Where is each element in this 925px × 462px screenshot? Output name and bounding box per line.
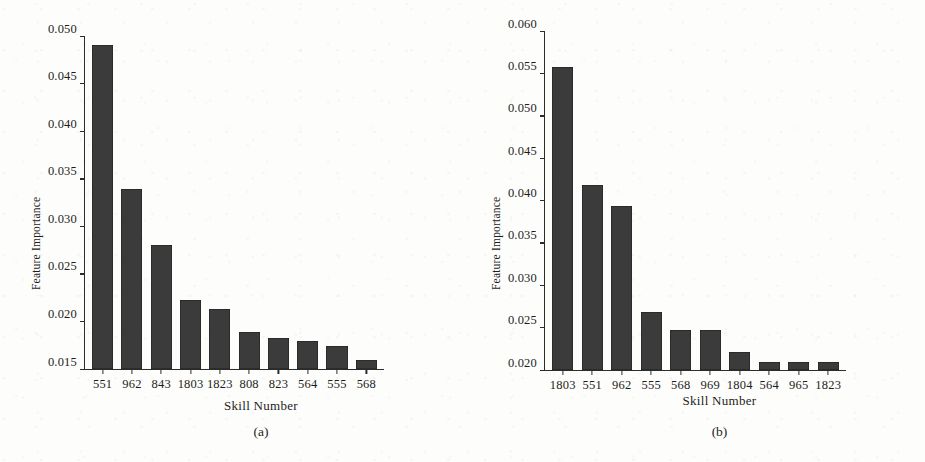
panel-caption-b: (b) [488, 424, 925, 440]
bar-slot-a: 1803 [176, 36, 205, 369]
x-tick-mark-b [621, 370, 622, 375]
bar-b [700, 330, 721, 370]
bar-a [151, 245, 172, 369]
y-tick-mark-b [540, 73, 545, 74]
x-tick-mark-a [278, 369, 279, 374]
bar-slot-b: 555 [637, 31, 667, 370]
figure-two-panel-bar-charts: Feature Importance 551962843180318238088… [0, 0, 925, 462]
x-tick-mark-a [102, 369, 103, 374]
bar-b [759, 362, 780, 370]
bar-slot-b: 969 [696, 31, 726, 370]
bar-b [611, 206, 632, 370]
bar-slot-a: 843 [147, 36, 176, 369]
bar-group-b: 180355196255556896918045649651823 [545, 31, 846, 370]
bar-slot-b: 1823 [814, 31, 844, 370]
bar-a [268, 338, 289, 369]
y-axis-label-a: Feature Importance [30, 197, 42, 290]
x-tick-mark-a [307, 369, 308, 374]
y-tick-mark-a [80, 273, 85, 274]
x-tick-label-b: 1823 [815, 378, 841, 393]
y-tick-mark-b [540, 115, 545, 116]
x-tick-label-b: 551 [583, 378, 602, 393]
y-tick-label-b: 0.035 [508, 228, 537, 243]
y-tick-mark-b [540, 327, 545, 328]
y-tick-mark-b [540, 158, 545, 159]
y-tick-label-a: 0.035 [48, 164, 77, 179]
x-tick-mark-a [190, 369, 191, 374]
bar-slot-a: 551 [88, 36, 117, 369]
y-tick-label-a: 0.050 [48, 21, 77, 36]
x-tick-label-b: 555 [642, 378, 661, 393]
bar-slot-a: 823 [264, 36, 293, 369]
x-tick-mark-a [336, 369, 337, 374]
x-tick-label-a: 823 [269, 377, 288, 392]
bar-slot-b: 564 [755, 31, 785, 370]
y-tick-label-a: 0.015 [48, 354, 77, 369]
x-tick-label-a: 568 [357, 377, 376, 392]
y-tick-mark-b [540, 370, 545, 371]
panel-b: Feature Importance 180355196255556896918… [462, 0, 925, 462]
x-tick-mark-b [680, 370, 681, 375]
y-tick-label-b: 0.050 [508, 101, 537, 116]
panel-caption-a: (a) [30, 424, 492, 440]
x-tick-mark-a [161, 369, 162, 374]
bar-a [121, 189, 142, 369]
bar-slot-b: 965 [784, 31, 814, 370]
bar-a [180, 300, 201, 369]
y-tick-label-b: 0.045 [508, 143, 537, 158]
y-tick-label-a: 0.040 [48, 116, 77, 131]
x-tick-mark-b [710, 370, 711, 375]
x-tick-mark-b [592, 370, 593, 375]
x-tick-mark-a [366, 369, 367, 374]
x-tick-mark-b [798, 370, 799, 375]
bar-slot-a: 1823 [205, 36, 234, 369]
x-tick-mark-a [249, 369, 250, 374]
y-axis-label-b: Feature Importance [490, 197, 502, 290]
y-tick-mark-a [80, 178, 85, 179]
y-tick-mark-a [80, 321, 85, 322]
x-tick-mark-a [219, 369, 220, 374]
x-tick-label-a: 962 [122, 377, 141, 392]
x-axis-label-b: Skill Number [488, 393, 925, 409]
bar-slot-a: 555 [322, 36, 351, 369]
x-tick-label-b: 965 [789, 378, 808, 393]
y-tick-label-a: 0.025 [48, 259, 77, 274]
bar-slot-a: 962 [117, 36, 146, 369]
y-tick-label-b: 0.020 [508, 355, 537, 370]
bar-b [729, 352, 750, 370]
x-tick-mark-b [651, 370, 652, 375]
plot-area-b: 180355196255556896918045649651823 0.0200… [544, 31, 846, 371]
panel-a: Feature Importance 551962843180318238088… [0, 0, 462, 462]
x-tick-label-a: 1803 [178, 377, 204, 392]
bar-a [239, 332, 260, 369]
bar-slot-a: 564 [293, 36, 322, 369]
y-tick-label-a: 0.030 [48, 211, 77, 226]
x-tick-label-b: 564 [760, 378, 779, 393]
y-tick-label-a: 0.045 [48, 69, 77, 84]
y-tick-label-b: 0.060 [508, 16, 537, 31]
bar-a [297, 341, 318, 369]
bar-slot-b: 1804 [725, 31, 755, 370]
x-tick-mark-b [769, 370, 770, 375]
x-tick-label-a: 551 [93, 377, 112, 392]
bar-slot-a: 808 [234, 36, 263, 369]
bar-slot-b: 568 [666, 31, 696, 370]
bar-a [209, 309, 230, 369]
bar-a [326, 346, 347, 369]
bar-a [92, 45, 113, 369]
x-tick-mark-b [562, 370, 563, 375]
y-tick-label-b: 0.040 [508, 186, 537, 201]
y-tick-mark-a [80, 36, 85, 37]
x-tick-label-b: 969 [701, 378, 720, 393]
x-tick-label-b: 962 [612, 378, 631, 393]
bar-b [670, 330, 691, 370]
x-axis-label-a: Skill Number [30, 398, 492, 414]
y-tick-mark-a [80, 131, 85, 132]
y-tick-label-b: 0.030 [508, 270, 537, 285]
x-tick-label-b: 1804 [727, 378, 753, 393]
y-tick-mark-b [540, 31, 545, 32]
bar-slot-a: 568 [352, 36, 381, 369]
y-tick-label-b: 0.055 [508, 58, 537, 73]
bar-b [552, 67, 573, 370]
x-tick-mark-a [131, 369, 132, 374]
